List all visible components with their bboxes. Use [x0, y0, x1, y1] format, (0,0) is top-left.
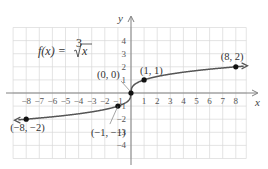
x-tick-label: 8 — [234, 96, 239, 106]
point-label: (0, 0) — [97, 69, 120, 81]
y-tick-label: 1 — [122, 75, 127, 85]
title-prefix: f(x) = — [38, 44, 66, 58]
point-label: (−1, −1) — [91, 127, 126, 139]
radicand: x — [81, 44, 88, 58]
x-tick-label: 7 — [220, 96, 225, 106]
x-tick-label: 1 — [142, 96, 147, 106]
point-label: (1, 1) — [140, 65, 163, 77]
x-tick-label: 5 — [194, 96, 199, 106]
x-tick-label: −6 — [48, 96, 58, 106]
x-tick-label: −4 — [74, 96, 84, 106]
y-tick-label: 4 — [122, 36, 127, 46]
x-axis-label: x — [254, 96, 260, 108]
x-tick-label: 3 — [168, 96, 173, 106]
y-axis-label: y — [117, 12, 123, 24]
x-tick-label: −5 — [61, 96, 71, 106]
x-tick-label: −8 — [21, 96, 31, 106]
x-tick-label: −3 — [87, 96, 97, 106]
point-label: (−8, −2) — [10, 122, 45, 134]
y-tick-label: 2 — [122, 62, 127, 72]
data-point — [233, 64, 238, 69]
x-tick-label: −7 — [35, 96, 45, 106]
x-tick-label: −2 — [100, 96, 110, 106]
data-point — [24, 117, 29, 122]
cube-root-graph: −8−7−6−5−4−3−2−112345678−4−3−2−11234 (−8… — [0, 0, 268, 169]
data-point — [142, 77, 147, 82]
svg-text:f(x) =: f(x) = — [38, 44, 66, 58]
y-tick-label: −4 — [116, 140, 126, 150]
x-tick-label: 2 — [155, 96, 160, 106]
x-tick-label: 6 — [207, 96, 212, 106]
data-point — [128, 90, 133, 95]
y-tick-label: −2 — [116, 114, 126, 124]
function-title: f(x) = 3 x — [38, 36, 92, 58]
labeled-points: (−8, −2)(−1, −1)(0, 0)(1, 1)(8, 2) — [10, 51, 244, 139]
y-tick-label: 3 — [122, 49, 127, 59]
x-tick-label: 4 — [181, 96, 186, 106]
point-label: (8, 2) — [221, 51, 244, 63]
